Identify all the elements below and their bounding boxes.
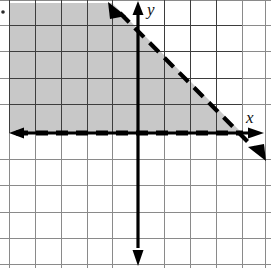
x-axis-label: x: [246, 109, 254, 126]
coordinate-plane: [0, 0, 271, 268]
margin-mark: [1, 10, 5, 14]
graph-figure: x y: [0, 0, 271, 268]
y-axis-label: y: [147, 1, 155, 18]
